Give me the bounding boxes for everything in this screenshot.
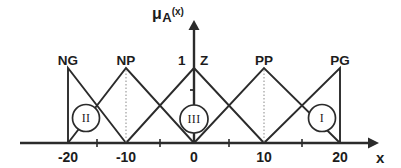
- x-axis-label: x: [376, 150, 384, 165]
- mf-label-np: NP: [117, 54, 136, 68]
- mf-label-pg: PG: [330, 54, 350, 68]
- mf-label-ng: NG: [58, 54, 78, 68]
- x-tick-label--20: -20: [58, 150, 78, 164]
- region-label-III: III: [188, 113, 201, 125]
- region-callouts: [73, 105, 336, 134]
- y-axis-superscript: (x): [172, 6, 184, 17]
- x-tick-label-0: 0: [190, 150, 198, 164]
- x-axis: [20, 138, 379, 149]
- region-label-I: I: [320, 112, 324, 124]
- x-axis-arrowhead: [368, 138, 379, 149]
- x-tick-label-10: 10: [256, 150, 272, 164]
- mf-label-z: Z: [200, 54, 208, 68]
- membership-curves: [68, 68, 340, 143]
- y-peak-value-label: 1: [178, 54, 186, 68]
- mf-label-pp: PP: [255, 54, 273, 68]
- mu-glyph: μ: [152, 5, 162, 22]
- y-axis-subscript: A: [162, 10, 171, 25]
- region-label-II: II: [82, 112, 91, 124]
- chart-canvas: [0, 0, 401, 168]
- y-axis-arrowhead: [189, 20, 200, 30]
- fuzzy-membership-figure: μA(x) NG NP PP PG 1 Z -20 -10 0 10 20 x …: [0, 0, 401, 168]
- y-axis-label: μA(x): [152, 6, 184, 24]
- x-tick-label-20: 20: [332, 150, 348, 164]
- x-tick-label--10: -10: [116, 150, 136, 164]
